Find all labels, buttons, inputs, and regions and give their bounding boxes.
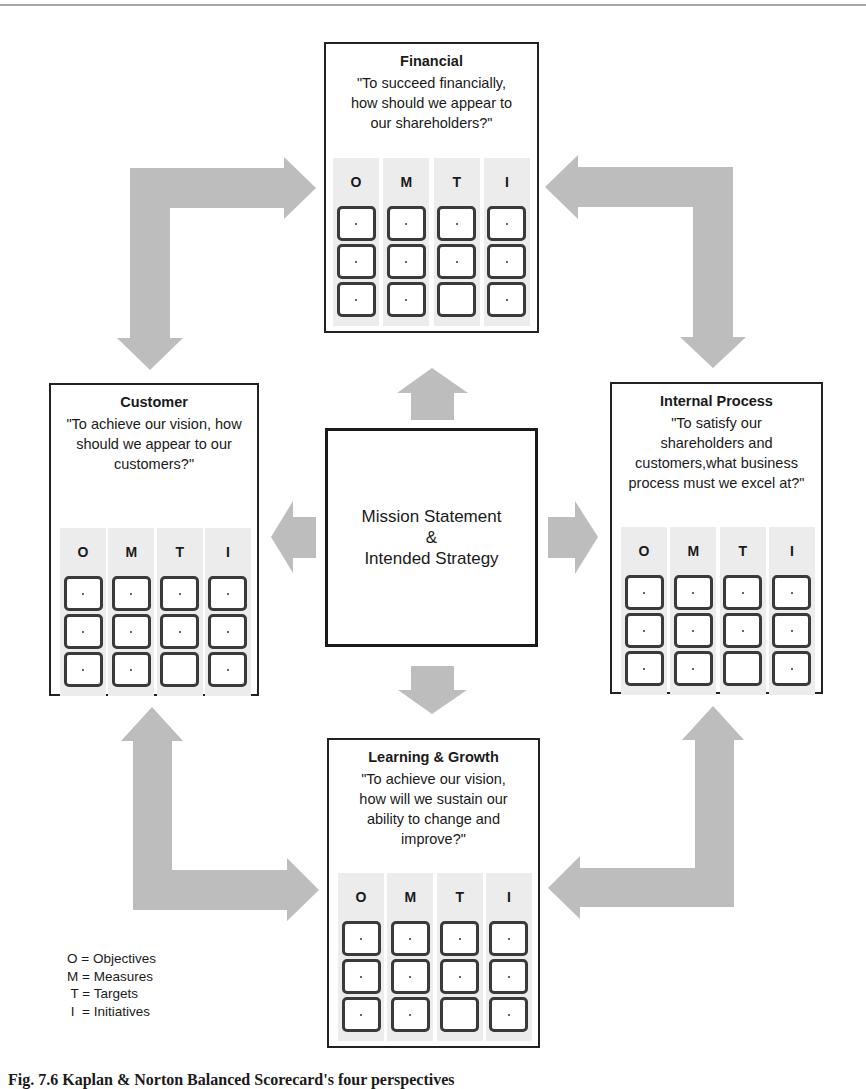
- grid-cell[interactable]: [342, 959, 381, 994]
- grid-cell[interactable]: [437, 244, 476, 279]
- grid-cell[interactable]: [772, 613, 811, 648]
- cell-dot: [692, 668, 694, 670]
- perspective-title: Financial: [326, 52, 537, 70]
- grid-cell[interactable]: [674, 613, 713, 648]
- grid-cell[interactable]: [487, 244, 526, 279]
- grid-cell[interactable]: [208, 576, 247, 611]
- grid-cell[interactable]: [625, 575, 664, 610]
- cell-dot: [791, 668, 793, 670]
- grid-cell[interactable]: [337, 206, 376, 241]
- column-header: I: [790, 527, 794, 575]
- grid-cell[interactable]: [387, 206, 426, 241]
- perspective-financial: Financial "To succeed financially, how s…: [324, 42, 539, 333]
- grid-cell[interactable]: [674, 575, 713, 610]
- question-line: how will we sustain our: [329, 789, 538, 809]
- cell-dot: [409, 976, 411, 978]
- question-line: "To achieve our vision,: [329, 769, 538, 789]
- grid-cell[interactable]: [489, 921, 528, 956]
- grid-cell[interactable]: [208, 652, 247, 687]
- cell-dot: [227, 593, 229, 595]
- grid-cell[interactable]: [723, 613, 762, 648]
- column-initiatives: I: [484, 158, 530, 326]
- grid-cell[interactable]: [487, 206, 526, 241]
- column-targets: T: [437, 873, 483, 1041]
- grid-cell[interactable]: [489, 997, 528, 1032]
- cell-dot: [692, 592, 694, 594]
- grid-cell[interactable]: [391, 997, 430, 1032]
- column-targets: T: [157, 528, 203, 696]
- column-header: I: [507, 873, 511, 921]
- elbow-arrow-top-left: [117, 157, 316, 370]
- grid-cell-empty[interactable]: [440, 997, 479, 1032]
- grid-cell[interactable]: [387, 282, 426, 317]
- cell-dot: [742, 592, 744, 594]
- column-targets: T: [434, 158, 480, 326]
- column-header: T: [738, 527, 747, 575]
- elbow-arrow-bottom-right: [548, 706, 744, 919]
- grid-cell[interactable]: [440, 921, 479, 956]
- grid-cell[interactable]: [342, 997, 381, 1032]
- perspective-title: Customer: [51, 393, 257, 411]
- cell-dot: [643, 630, 645, 632]
- question-line: should we appear to our: [51, 434, 257, 454]
- cell-dot: [405, 223, 407, 225]
- grid-cell[interactable]: [391, 921, 430, 956]
- grid-cell[interactable]: [64, 614, 103, 649]
- grid-cell[interactable]: [723, 575, 762, 610]
- perspective-title: Internal Process: [612, 392, 821, 410]
- omti-grid: O M T I: [621, 527, 815, 695]
- column-header: T: [175, 528, 184, 576]
- question-line: how should we appear to: [326, 93, 537, 113]
- omti-grid: O M T I: [338, 873, 532, 1041]
- column-header: T: [455, 873, 464, 921]
- cell-dot: [355, 261, 357, 263]
- grid-cell[interactable]: [625, 613, 664, 648]
- grid-cell[interactable]: [391, 959, 430, 994]
- perspective-question: "To achieve our vision, how will we sust…: [329, 769, 538, 849]
- perspective-customer: Customer "To achieve our vision, how sho…: [49, 383, 259, 696]
- grid-cell[interactable]: [337, 244, 376, 279]
- grid-cell[interactable]: [674, 651, 713, 686]
- grid-cell[interactable]: [772, 651, 811, 686]
- cell-dot: [643, 668, 645, 670]
- grid-cell[interactable]: [437, 206, 476, 241]
- figure-caption: Fig. 7.6 Kaplan & Norton Balanced Scorec…: [8, 1071, 455, 1089]
- grid-cell[interactable]: [64, 576, 103, 611]
- grid-cell[interactable]: [772, 575, 811, 610]
- arrow-left-to-customer: [271, 501, 316, 573]
- question-line: "To satisfy our: [612, 413, 821, 433]
- grid-cell[interactable]: [387, 244, 426, 279]
- perspective-question: "To achieve our vision, how should we ap…: [51, 414, 257, 474]
- grid-cell-empty[interactable]: [437, 282, 476, 317]
- question-line: improve?": [329, 829, 538, 849]
- cell-dot: [355, 223, 357, 225]
- perspective-title: Learning & Growth: [329, 748, 538, 766]
- column-header: M: [125, 528, 137, 576]
- grid-cell[interactable]: [112, 652, 151, 687]
- grid-cell[interactable]: [160, 614, 199, 649]
- grid-cell[interactable]: [160, 576, 199, 611]
- grid-cell-empty[interactable]: [723, 651, 762, 686]
- cell-dot: [360, 1014, 362, 1016]
- grid-cell[interactable]: [64, 652, 103, 687]
- grid-cell[interactable]: [208, 614, 247, 649]
- cell-dot: [508, 1014, 510, 1016]
- grid-cell-empty[interactable]: [160, 652, 199, 687]
- cell-dot: [692, 630, 694, 632]
- grid-cell[interactable]: [342, 921, 381, 956]
- cell-dot: [791, 592, 793, 594]
- grid-cell[interactable]: [625, 651, 664, 686]
- cell-dot: [355, 299, 357, 301]
- grid-cell[interactable]: [112, 576, 151, 611]
- cell-dot: [643, 592, 645, 594]
- grid-cell[interactable]: [112, 614, 151, 649]
- grid-cell[interactable]: [337, 282, 376, 317]
- grid-cell[interactable]: [489, 959, 528, 994]
- cell-dot: [508, 938, 510, 940]
- grid-cell[interactable]: [440, 959, 479, 994]
- cell-dot: [130, 593, 132, 595]
- cell-dot: [82, 669, 84, 671]
- elbow-arrow-bottom-left: [121, 707, 319, 921]
- column-objectives: O: [60, 528, 106, 696]
- grid-cell[interactable]: [487, 282, 526, 317]
